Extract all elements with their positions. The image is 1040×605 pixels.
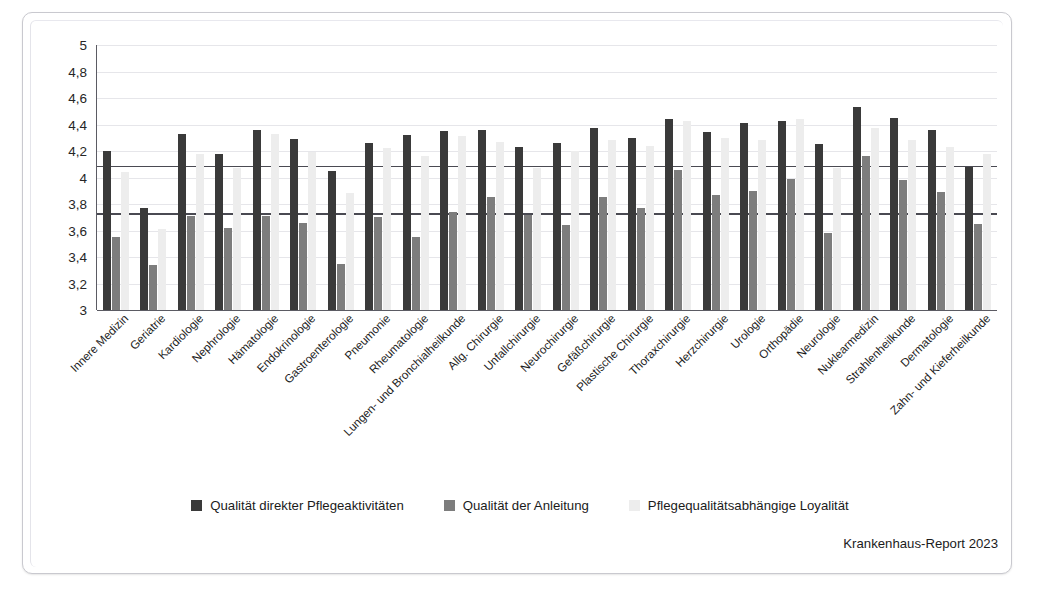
bar: [365, 143, 373, 310]
legend-swatch: [191, 500, 202, 511]
y-tick-label: 3,6: [17, 223, 87, 238]
bar: [833, 168, 841, 310]
bar: [890, 118, 898, 310]
legend-swatch: [629, 500, 640, 511]
bar: [140, 208, 148, 310]
legend-item: Qualität der Anleitung: [444, 498, 589, 513]
bar: [712, 195, 720, 310]
bar: [646, 146, 654, 310]
bar: [796, 119, 804, 310]
bar: [965, 167, 973, 310]
y-tick-label: 3,4: [17, 250, 87, 265]
y-tick-label: 4,4: [17, 117, 87, 132]
bar: [749, 191, 757, 310]
bar: [337, 264, 345, 310]
legend-item: Qualität direkter Pflegeaktivitäten: [191, 498, 404, 513]
bar: [628, 138, 636, 310]
bar: [937, 192, 945, 310]
legend-item: Pflegequalitätsabhängige Loyalität: [629, 498, 849, 513]
bar: [374, 217, 382, 310]
bar-group: [697, 45, 735, 310]
bar-group: [360, 45, 398, 310]
bar: [703, 132, 711, 310]
bar-group: [772, 45, 810, 310]
y-tick-label: 4,8: [17, 64, 87, 79]
bar: [608, 140, 616, 310]
y-tick-label: 3: [17, 303, 87, 318]
bar-group: [97, 45, 135, 310]
bar-group: [810, 45, 848, 310]
bar: [674, 170, 682, 310]
bar: [637, 208, 645, 310]
bar: [683, 121, 691, 310]
y-axis-tick-labels: 33,23,43,63,844,24,44,64,85: [0, 45, 97, 310]
legend-label: Qualität direkter Pflegeaktivitäten: [210, 498, 404, 513]
legend-swatch: [444, 500, 455, 511]
y-tick-label: 5: [17, 38, 87, 53]
bar: [871, 128, 879, 310]
chart-figure: 33,23,43,63,844,24,44,64,85 Innere Mediz…: [0, 0, 1040, 605]
bar: [112, 237, 120, 310]
bar: [524, 215, 532, 310]
bar-group: [847, 45, 885, 310]
bar: [496, 142, 504, 310]
bar: [824, 233, 832, 310]
bar: [787, 179, 795, 310]
source-caption: Krankenhaus-Report 2023: [843, 536, 998, 551]
legend-label: Qualität der Anleitung: [463, 498, 589, 513]
bar: [271, 134, 279, 310]
bar-group: [922, 45, 960, 310]
bar: [515, 147, 523, 310]
bar: [158, 229, 166, 310]
bar-group: [472, 45, 510, 310]
bar: [599, 197, 607, 310]
bar: [149, 265, 157, 310]
y-tick-label: 3,8: [17, 197, 87, 212]
plot-area: [97, 45, 997, 310]
bar: [908, 140, 916, 310]
bar-group: [735, 45, 773, 310]
y-tick-label: 4: [17, 170, 87, 185]
y-tick-label: 3,2: [17, 276, 87, 291]
bar: [403, 135, 411, 310]
bar-group: [397, 45, 435, 310]
bar: [328, 171, 336, 310]
bar: [233, 168, 241, 310]
bar: [899, 180, 907, 310]
bar-group: [322, 45, 360, 310]
bar: [562, 225, 570, 310]
bar: [533, 168, 541, 310]
bar: [740, 123, 748, 310]
bar: [487, 197, 495, 310]
bar: [553, 143, 561, 310]
bar: [412, 237, 420, 310]
chart-legend: Qualität direkter PflegeaktivitätenQuali…: [0, 498, 1040, 513]
bar: [299, 223, 307, 310]
bar-group: [885, 45, 923, 310]
y-axis-line: [96, 45, 97, 310]
bar-group: [135, 45, 173, 310]
bar: [215, 154, 223, 310]
bar: [187, 216, 195, 310]
bar: [262, 216, 270, 310]
bar: [974, 224, 982, 310]
bar: [458, 136, 466, 310]
bar: [665, 119, 673, 310]
bar: [121, 172, 129, 310]
bar-group: [172, 45, 210, 310]
bar: [449, 212, 457, 310]
bar: [224, 228, 232, 310]
bar: [290, 139, 298, 310]
bar-group: [285, 45, 323, 310]
bar: [778, 121, 786, 310]
bar: [928, 130, 936, 310]
bar-group: [585, 45, 623, 310]
bar: [440, 131, 448, 310]
bar: [103, 151, 111, 310]
bar: [421, 156, 429, 310]
legend-label: Pflegequalitätsabhängige Loyalität: [648, 498, 849, 513]
bar-group: [435, 45, 473, 310]
bar: [946, 147, 954, 310]
y-tick-label: 4,2: [17, 144, 87, 159]
bar-group: [622, 45, 660, 310]
